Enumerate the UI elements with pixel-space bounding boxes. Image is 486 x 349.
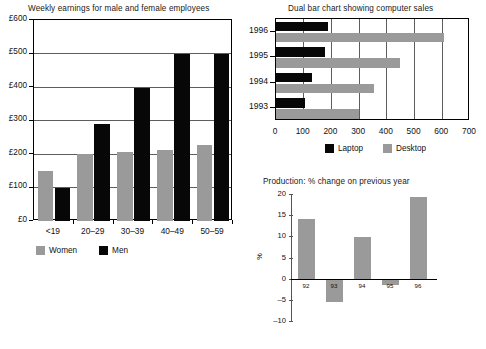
bar-men-4049 — [174, 54, 190, 221]
zero-baseline — [291, 279, 437, 280]
x-axis-tick-label: 95 — [376, 282, 404, 289]
bar-94 — [354, 237, 371, 279]
bar-desktop-1993 — [276, 109, 359, 119]
legend-label-men: Men — [112, 246, 128, 255]
y-axis-tick-mark — [29, 19, 33, 20]
x-axis-tick-mark — [152, 220, 153, 224]
legend-item-women: Women — [36, 246, 77, 255]
y-axis-tick-mark — [270, 56, 275, 57]
y-axis-tick-mark — [29, 86, 33, 87]
chart-title: Dual bar chart showing computer sales — [288, 4, 433, 13]
legend-swatch-laptop — [325, 144, 334, 153]
legend-label-desktop: Desktop — [396, 144, 426, 153]
plot-area — [292, 194, 432, 321]
y-axis-tick-label: 1995 — [248, 50, 268, 60]
y-axis-tick-label: £100 — [9, 181, 27, 190]
y-axis-tick-label: 0 — [254, 274, 286, 283]
y-axis-tick-label: 10 — [254, 231, 286, 240]
chart-production-change: Production: % change on previous year 20… — [248, 174, 486, 349]
legend-item-men: Men — [99, 246, 128, 255]
legend-swatch-women — [36, 246, 45, 255]
chart-title: Weekly earnings for male and female empl… — [28, 4, 209, 13]
y-axis-tick-label: £200 — [9, 148, 27, 157]
y-axis-tick-label: 1996 — [248, 25, 268, 35]
bar-men-19 — [55, 188, 71, 222]
bar-men-2029 — [94, 124, 110, 221]
y-axis-tick-label: 15 — [254, 210, 286, 219]
y-axis-tick-mark — [270, 82, 275, 83]
chart-legend: LaptopDesktop — [325, 144, 426, 153]
bar-96 — [410, 197, 427, 279]
grid-line — [34, 53, 231, 54]
grid-line — [34, 87, 231, 88]
y-axis-tick-mark — [29, 220, 33, 221]
legend-item-laptop: Laptop — [325, 144, 363, 153]
x-axis-tick-mark — [73, 220, 74, 224]
grid-line — [34, 120, 231, 121]
chart-title: Production: % change on previous year — [263, 177, 410, 186]
x-axis-tick-mark — [113, 220, 114, 224]
legend-swatch-men — [99, 246, 108, 255]
bar-desktop-1995 — [276, 58, 400, 68]
y-axis-tick-mark — [270, 107, 275, 108]
x-axis-tick-label: 96 — [404, 282, 432, 289]
legend-swatch-desktop — [383, 144, 392, 153]
y-axis-tick-label: £400 — [9, 81, 27, 90]
legend-label-laptop: Laptop — [338, 144, 363, 153]
bar-men-3039 — [134, 88, 150, 221]
y-axis-tick-label: £500 — [9, 47, 27, 56]
y-axis-tick-mark — [289, 258, 293, 259]
legend-label-women: Women — [49, 246, 77, 255]
bar-women-19 — [38, 171, 54, 221]
plot-area — [33, 19, 232, 220]
y-axis-tick-mark — [29, 120, 33, 121]
x-axis-tick-label: 50–59 — [187, 226, 237, 236]
bar-women-5059 — [197, 145, 213, 221]
y-axis-tick-label: £600 — [9, 14, 27, 23]
bar-women-2029 — [77, 154, 93, 221]
x-axis-tick-mark — [192, 220, 193, 224]
bar-desktop-1996 — [276, 33, 444, 43]
bar-laptop-1994 — [276, 73, 312, 83]
x-axis-tick-label: 700 — [449, 126, 486, 136]
bar-laptop-1996 — [276, 22, 328, 32]
chart-legend: WomenMen — [36, 246, 128, 255]
legend-item-desktop: Desktop — [383, 144, 426, 153]
y-axis-tick-label: £0 — [18, 215, 27, 224]
x-axis-tick-label: 92 — [292, 282, 320, 289]
plot-area — [275, 18, 469, 120]
x-axis-tick-label: 93 — [320, 282, 348, 289]
x-axis-tick-mark — [232, 220, 233, 224]
y-axis-tick-mark — [29, 187, 33, 188]
y-axis-tick-mark — [289, 215, 293, 216]
bar-92 — [298, 219, 315, 279]
y-axis-title: % — [255, 249, 264, 263]
y-axis-tick-mark — [270, 31, 275, 32]
y-axis-tick-mark — [289, 300, 293, 301]
y-axis-tick-label: 1993 — [248, 101, 268, 111]
y-axis-tick-mark — [29, 153, 33, 154]
bar-laptop-1993 — [276, 98, 305, 108]
y-axis-tick-mark — [289, 194, 293, 195]
y-axis-tick-label: –5 — [254, 295, 286, 304]
y-axis-tick-mark — [289, 321, 293, 322]
bar-women-3039 — [117, 152, 133, 221]
y-axis-tick-label: 20 — [254, 189, 286, 198]
bar-desktop-1994 — [276, 84, 374, 94]
bar-men-5059 — [214, 54, 230, 221]
y-axis-tick-label: £300 — [9, 114, 27, 123]
y-axis-tick-mark — [29, 53, 33, 54]
y-axis-tick-label: 1994 — [248, 76, 268, 86]
y-axis-tick-mark — [289, 236, 293, 237]
y-axis-tick-label: –10 — [254, 316, 286, 325]
chart-computer-sales: Dual bar chart showing computer sales 01… — [248, 0, 486, 170]
bar-women-4049 — [157, 150, 173, 221]
bar-laptop-1995 — [276, 47, 325, 57]
chart-weekly-earnings: Weekly earnings for male and female empl… — [0, 0, 245, 270]
x-axis-tick-label: 94 — [348, 282, 376, 289]
